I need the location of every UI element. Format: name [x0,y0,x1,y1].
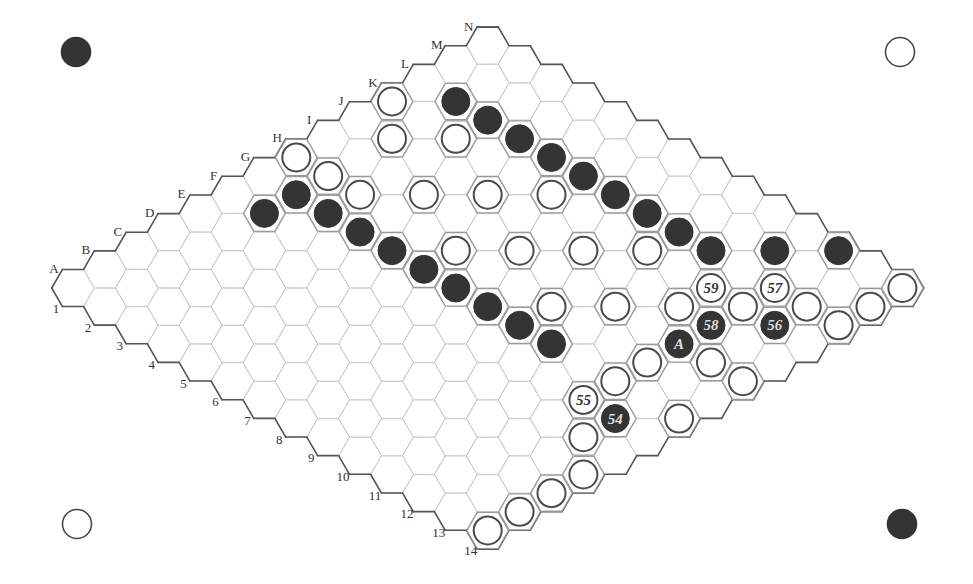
hex-cell-N5 [594,102,637,139]
hex-cell-D11 [466,400,509,437]
hex-cell-N8 [690,158,733,195]
corner-white-stone-top-right [886,38,915,67]
border-edge [754,176,765,194]
hex-cell-D7 [339,326,382,363]
hex-cell-E10 [466,363,509,400]
hex-cell-B6 [243,344,286,381]
hex-cell-E8 [403,326,446,363]
column-label-I: I [307,112,311,127]
border-edge [817,344,828,362]
hex-cell-C6 [275,326,318,363]
border-edge [594,83,605,101]
hex-cell-N2 [498,46,541,83]
row-label-7: 7 [244,413,251,428]
move-number-label: 56 [767,317,783,333]
border-edge [498,27,509,45]
hex-cell-N10 [754,195,797,232]
column-label-F: F [210,168,217,183]
hex-cell-C7 [307,344,350,381]
border-edge [722,158,733,176]
row-labels: 1234567891011121314 [53,301,478,558]
hex-cell-C2 [147,251,190,288]
hex-cell-D3 [211,251,254,288]
border-edge [658,437,669,455]
hex-cell-E3 [243,232,286,269]
move-number-label: 58 [704,317,720,333]
row-label-6: 6 [212,394,219,409]
column-label-D: D [145,205,154,220]
border-edge [785,363,796,381]
hex-cell-D2 [179,232,222,269]
column-label-J: J [339,93,344,108]
hex-cell-N4 [562,83,605,120]
row-label-8: 8 [276,432,283,447]
hex-cell-C11 [435,419,478,456]
hex-board-diagram: ABCDEFGHIJKLMN 1234567891011121314 A5856… [0,0,973,584]
border-edge [658,120,669,138]
hex-cell-B8 [307,382,350,419]
hex-cell-C4 [211,288,254,325]
move-number-label: A [673,336,684,352]
hex-cell-C10 [403,400,446,437]
hex-cell-B11 [403,437,446,474]
column-label-M: M [431,37,443,52]
border-edge [562,64,573,82]
row-label-4: 4 [148,357,155,372]
hex-cell-D12 [498,419,541,456]
column-label-G: G [241,149,250,164]
hex-cell-D5 [275,288,318,325]
hex-cell-C8 [339,363,382,400]
row-label-12: 12 [400,506,413,521]
row-label-3: 3 [117,338,124,353]
row-label-13: 13 [432,525,445,540]
row-label-9: 9 [308,450,315,465]
row-label-5: 5 [180,376,187,391]
hex-cell-B4 [179,307,222,344]
row-label-1: 1 [53,301,60,316]
hex-cell-B5 [211,326,254,363]
hex-cell-E4 [275,251,318,288]
hex-cell-C12 [466,437,509,474]
column-label-C: C [113,224,122,239]
border-edge [722,400,733,418]
corner-black-stone-top-left [62,38,91,67]
move-number-label: 57 [767,280,783,296]
hex-cell-N3 [530,64,573,101]
border-edge [626,102,637,120]
border-edge [626,456,637,474]
hex-cell-B2 [116,270,159,307]
border-edge [881,251,892,269]
hex-cell-B7 [275,363,318,400]
hex-cell-C3 [179,270,222,307]
hex-cell-D8 [371,344,414,381]
border-edge [785,195,796,213]
move-number-label: 54 [608,411,624,427]
hex-cell-B10 [371,419,414,456]
column-label-K: K [368,75,378,90]
column-label-H: H [273,130,282,145]
hex-cell-E5 [307,270,350,307]
hex-cell-C5 [243,307,286,344]
hex-cell-E1 [179,195,222,232]
row-label-10: 10 [337,469,350,484]
row-label-11: 11 [369,488,382,503]
hex-cell-D9 [403,363,446,400]
column-label-A: A [49,261,59,276]
row-label-2: 2 [85,320,92,335]
hex-cell-E9 [435,344,478,381]
corner-black-stone-bottom-right [888,510,917,539]
column-label-E: E [178,186,186,201]
hex-cell-E7 [371,307,414,344]
border-edge [530,46,541,64]
column-labels: ABCDEFGHIJKLMN [49,19,474,276]
hex-cell-B3 [147,288,190,325]
hex-cell-N9 [722,176,765,213]
hex-cell-D4 [243,270,286,307]
border-edge [690,139,701,157]
hex-cell-C9 [371,382,414,419]
hex-cell-B12 [435,456,478,493]
corner-white-stone-bottom-left [63,510,92,539]
column-label-L: L [401,56,409,71]
move-number-label: 59 [704,280,720,296]
column-label-N: N [464,19,474,34]
